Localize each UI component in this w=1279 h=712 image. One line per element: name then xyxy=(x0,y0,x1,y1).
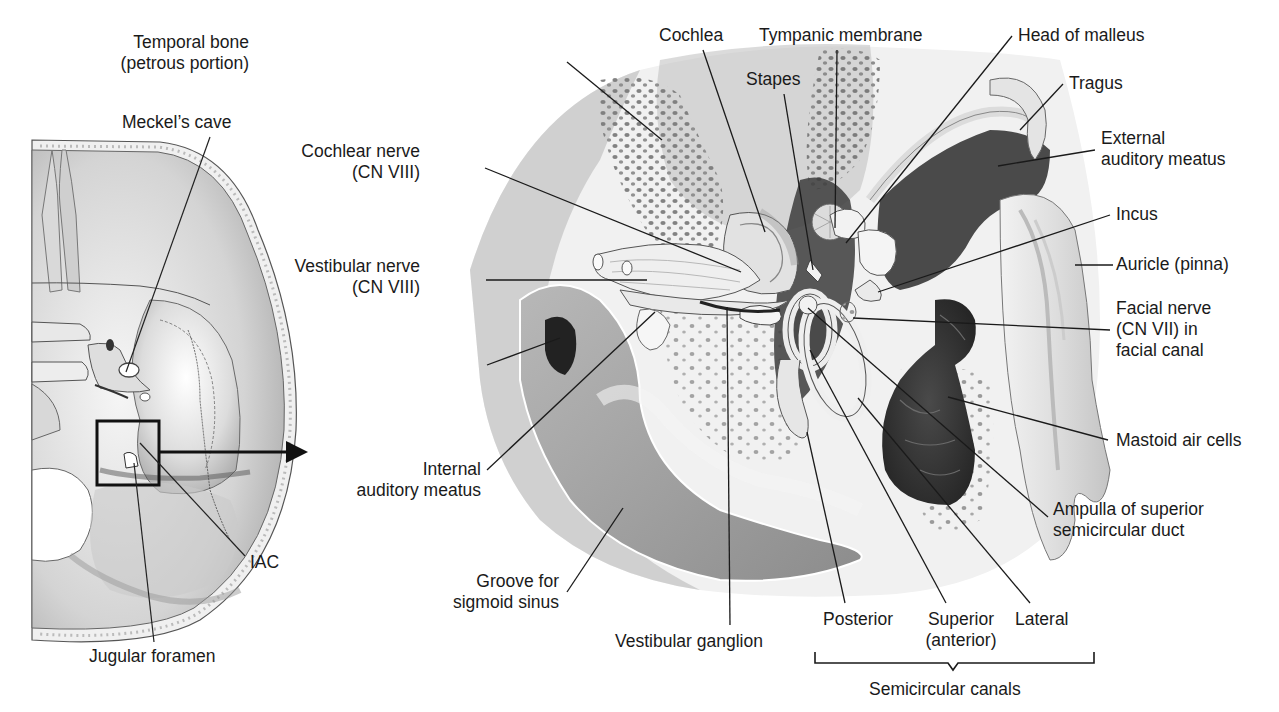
label-incus: Incus xyxy=(1116,204,1158,225)
label-head-of-malleus: Head of malleus xyxy=(1018,25,1144,46)
label-groove-sigmoid-sinus: Groove for sigmoid sinus xyxy=(453,571,559,613)
label-tympanic-membrane: Tympanic membrane xyxy=(759,25,922,46)
illustration xyxy=(0,0,1279,712)
label-iac: IAC xyxy=(250,552,279,573)
label-auricle: Auricle (pinna) xyxy=(1116,254,1229,275)
label-internal-auditory-meatus: Internal auditory meatus xyxy=(356,459,481,501)
label-cochlea: Cochlea xyxy=(659,25,723,46)
label-superior: Superior (anterior) xyxy=(918,609,1004,651)
ampulla xyxy=(799,296,817,314)
ear-cross-section xyxy=(470,36,1113,670)
label-tragus: Tragus xyxy=(1069,73,1123,94)
label-semicircular-canals: Semicircular canals xyxy=(869,679,1021,700)
label-external-auditory-meatus: External auditory meatus xyxy=(1101,128,1226,170)
figure: Meckel’s cave IAC Jugular foramen Tempor… xyxy=(0,0,1279,712)
label-facial-nerve: Facial nerve (CN VII) in facial canal xyxy=(1116,298,1211,361)
label-lateral: Lateral xyxy=(1015,609,1069,630)
semicircular-canals-brace xyxy=(815,652,1094,670)
label-stapes: Stapes xyxy=(746,69,800,90)
label-jugular-foramen: Jugular foramen xyxy=(89,646,215,667)
label-ampulla: Ampulla of superior semicircular duct xyxy=(1053,499,1204,541)
label-temporal-bone: Temporal bone (petrous portion) xyxy=(121,32,249,74)
label-posterior: Posterior xyxy=(823,609,893,630)
arrow-right-icon xyxy=(286,441,308,463)
label-vestibular-ganglion: Vestibular ganglion xyxy=(615,631,763,652)
incus xyxy=(858,230,896,276)
label-vestibular-nerve: Vestibular nerve (CN VIII) xyxy=(295,256,421,298)
facial-nerve xyxy=(840,302,856,322)
label-meckels-cave: Meckel’s cave xyxy=(122,112,232,133)
label-cochlear-nerve: Cochlear nerve (CN VIII) xyxy=(301,141,420,183)
label-mastoid-air-cells: Mastoid air cells xyxy=(1116,430,1241,451)
